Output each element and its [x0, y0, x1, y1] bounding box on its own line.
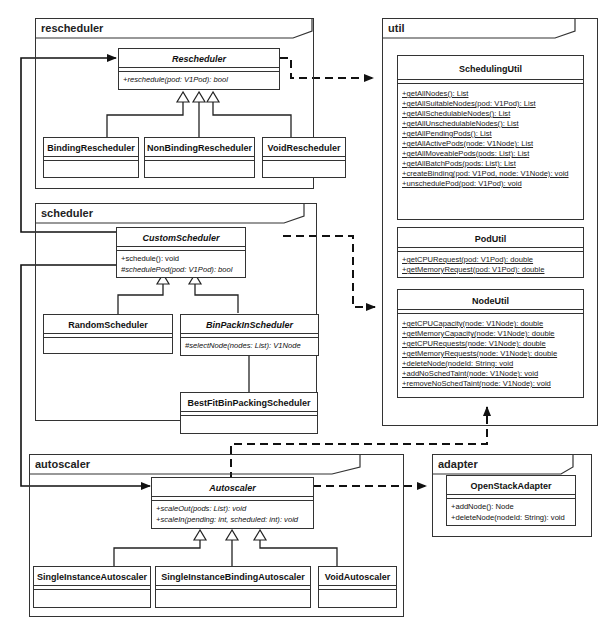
class-pod-util[interactable]: PodUtil +getCPURequest(pod: V1Pod): doub… [397, 227, 584, 278]
operation: +getAllMoveablePods(pods: List): List [402, 149, 579, 159]
operation: +removeNoSchedTaint(node: V1Node): void [402, 379, 579, 389]
class-binpack-scheduler[interactable]: BinPackInScheduler #selectNode(nodes: Li… [180, 314, 319, 356]
operation: +getAllBatchPods(pods: List): List [402, 159, 579, 169]
operation: +scaleIn(pending: int, scheduled: int): … [156, 515, 309, 526]
package-title: autoscaler [35, 458, 90, 470]
class-random-scheduler[interactable]: RandomScheduler [43, 314, 173, 354]
operation: +addNode(): Node [451, 502, 571, 513]
operation: +deleteNode(nodeId: String: void [402, 359, 579, 369]
class-name: SingleInstanceAutoscaler [34, 567, 150, 586]
class-scheduling-util[interactable]: SchedulingUtil +getAllNodes(): List +get… [397, 55, 584, 220]
class-name: SchedulingUtil [398, 56, 583, 80]
operation: +getMemoryCapacity(node: V1Node): double [402, 329, 579, 339]
class-name: RandomScheduler [44, 315, 172, 334]
class-void-rescheduler[interactable]: VoidRescheduler [262, 137, 346, 178]
class-name: VoidRescheduler [263, 138, 345, 157]
package-title: util [388, 22, 405, 34]
operation: +getCPUCapacity(node: V1Node): double [402, 319, 579, 329]
class-name: PodUtil [398, 228, 583, 248]
class-binding-rescheduler[interactable]: BindingRescheduler [43, 137, 139, 178]
class-name: VoidAutoscaler [319, 567, 396, 586]
operation: +getAllSchedulableNodes(): List [402, 109, 579, 119]
operation: +getCPURequests(node: V1Node): double [402, 339, 579, 349]
class-name: BindingRescheduler [44, 138, 138, 157]
class-name: BinPackInScheduler [181, 315, 318, 334]
class-autoscaler[interactable]: Autoscaler +scaleOut(pods: List): void +… [151, 477, 314, 529]
operation: +getCPURequest(pod: V1Pod): double [402, 255, 579, 265]
operation: +getAllUnschedulableNodes(): List [402, 119, 579, 129]
package-title: scheduler [41, 207, 93, 219]
operation: +getAllNodes(): List [402, 89, 579, 99]
class-name: NonBindingRescheduler [145, 138, 254, 157]
class-name: BestFitBinPackingScheduler [181, 393, 317, 412]
class-node-util[interactable]: NodeUtil +getCPUCapacity(node: V1Node): … [397, 289, 584, 398]
operation: +getAllPendingPods(): List [402, 129, 579, 139]
operation: #schedulePod(pod: V1Pod): bool [121, 265, 241, 276]
package-title: rescheduler [41, 22, 103, 34]
operation: +unschedulePod(pod: V1Pod): void [402, 179, 579, 189]
class-single-instance-binding-autoscaler[interactable]: SingleInstanceBindingAutoscaler [155, 566, 311, 608]
class-name: OpenStackAdapter [447, 476, 575, 495]
operation: +deleteNode(nodeId: String): void [451, 513, 571, 524]
class-name: Autoscaler [152, 478, 313, 497]
class-rescheduler[interactable]: Rescheduler +reschedule(pod: V1Pod): boo… [118, 48, 280, 90]
class-name: CustomScheduler [117, 228, 245, 247]
operation: +getMemoryRequest(pod: V1Pod): double [402, 265, 579, 275]
class-bestfit-scheduler[interactable]: BestFitBinPackingScheduler [180, 392, 318, 434]
operation: +getMemoryRequests(node: V1Node): double [402, 349, 579, 359]
package-title: adapter [438, 458, 478, 470]
class-single-instance-autoscaler[interactable]: SingleInstanceAutoscaler [33, 566, 151, 608]
operation: +getAllActivePods(node: V1Node): List [402, 139, 579, 149]
class-name: Rescheduler [119, 49, 279, 68]
class-openstack-adapter[interactable]: OpenStackAdapter +addNode(): Node +delet… [446, 475, 576, 526]
operation: +reschedule(pod: V1Pod): bool [123, 75, 275, 86]
class-name: SingleInstanceBindingAutoscaler [156, 567, 310, 586]
operation: +scaleOut(pods: List): void [156, 504, 309, 515]
class-name: NodeUtil [398, 290, 583, 310]
class-custom-scheduler[interactable]: CustomScheduler +schedule(): void #sched… [116, 227, 246, 278]
class-void-autoscaler[interactable]: VoidAutoscaler [318, 566, 397, 608]
operation: +schedule(): void [121, 254, 241, 265]
class-nonbinding-rescheduler[interactable]: NonBindingRescheduler [144, 137, 255, 178]
operation: #selectNode(nodes: List): V1Node [185, 341, 314, 352]
operation: +addNoSchedTaint(node: V1Node): void [402, 369, 579, 379]
operation: +getAllSuitableNodes(pod: V1Pod): List [402, 99, 579, 109]
operation: +createBinding(pod: V1Pod, node: V1Node)… [402, 169, 579, 179]
